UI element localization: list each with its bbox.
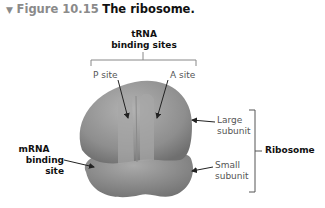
- trna-line1: tRNA: [108, 29, 180, 40]
- large-subunit-shape: [80, 81, 192, 164]
- trna-binding-sites-label: tRNA binding sites: [108, 29, 180, 51]
- mrna-line2: binding site: [4, 155, 64, 177]
- large-subunit-label: Large subunit: [217, 115, 251, 137]
- large-line2: subunit: [217, 126, 251, 137]
- mrna-binding-site-label: mRNA binding site: [4, 144, 64, 177]
- large-line1: Large: [217, 115, 251, 126]
- small-line2: subunit: [215, 171, 249, 182]
- p-site-label: P site: [93, 70, 118, 81]
- small-subunit-label: Small subunit: [215, 160, 249, 182]
- small-line1: Small: [215, 160, 249, 171]
- trna-line2: binding sites: [108, 40, 180, 51]
- a-site-label: A site: [170, 70, 195, 81]
- ribosome-label: Ribosome: [265, 145, 315, 156]
- mrna-line1: mRNA: [4, 144, 64, 155]
